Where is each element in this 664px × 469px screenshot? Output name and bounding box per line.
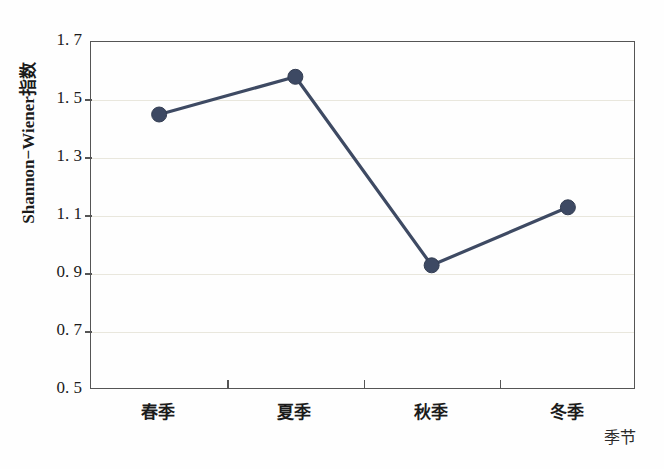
y-tick-label: 1. 1 (22, 204, 82, 224)
y-tick-label: 1. 7 (22, 30, 82, 50)
chart-figure: Shannon−Wiener指数 1. 71. 51. 31. 10. 90. … (0, 0, 664, 469)
y-tick-label: 0. 9 (22, 262, 82, 282)
y-tick-label: 1. 5 (22, 88, 82, 108)
x-axis-title: 季节 (580, 424, 660, 448)
data-point (560, 200, 575, 215)
data-point (424, 258, 439, 273)
data-point (288, 69, 303, 84)
y-tick-label: 0. 7 (22, 320, 82, 340)
data-point (152, 107, 167, 122)
y-tick-label: 1. 3 (22, 146, 82, 166)
plot-area (90, 41, 635, 389)
series-plot (91, 42, 636, 390)
series-line (159, 77, 568, 265)
x-tick-label: 秋季 (371, 398, 491, 423)
x-tick-label: 冬季 (507, 398, 627, 423)
y-tick-label: 0. 5 (22, 378, 82, 398)
x-tick-label: 夏季 (234, 398, 354, 423)
x-tick-label: 春季 (98, 398, 218, 423)
